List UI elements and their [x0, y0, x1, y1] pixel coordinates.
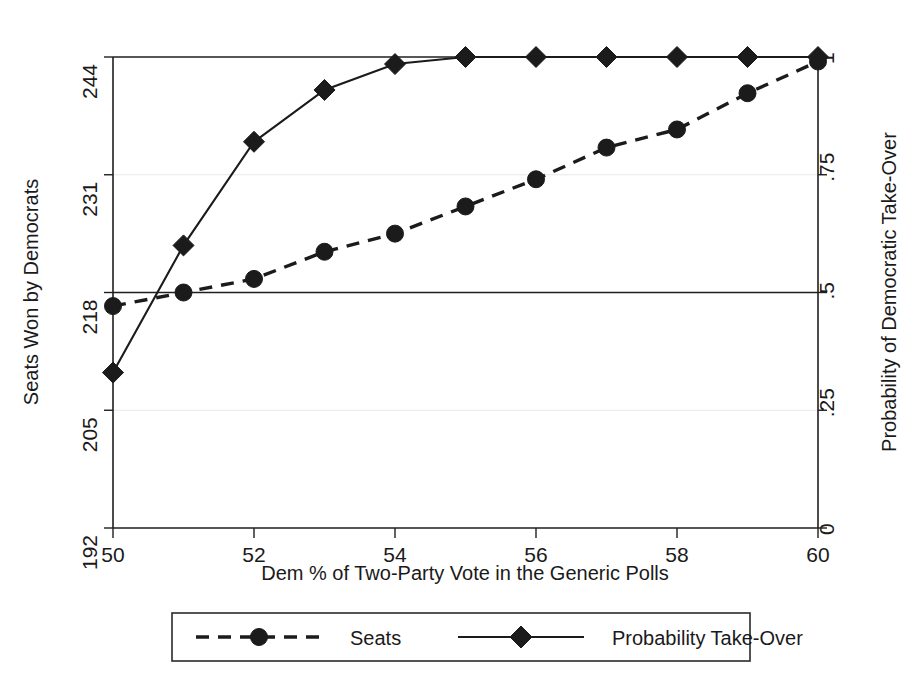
x-axis-ticks: 505254565860	[101, 528, 829, 566]
legend-marker-circle-icon	[251, 629, 268, 646]
x-tick-label-58: 58	[665, 543, 688, 566]
x-axis-title: Dem % of Two-Party Vote in the Generic P…	[261, 562, 669, 584]
data-point-seats-59[interactable]	[739, 85, 756, 102]
legend-label-probability: Probability Take-Over	[612, 627, 803, 649]
data-point-seats-57[interactable]	[598, 139, 615, 156]
y-axis-right-title: Probability of Democratic Take-Over	[878, 132, 900, 452]
data-point-seats-58[interactable]	[669, 121, 686, 138]
data-point-seats-56[interactable]	[528, 171, 545, 188]
x-tick-label-50: 50	[101, 543, 124, 566]
y-axis-left-title: Seats Won by Democrats	[20, 179, 42, 405]
data-point-seats-52[interactable]	[246, 270, 263, 287]
y-axis-left-ticks: 192205218231244	[78, 57, 113, 570]
y2-tick-label-0_5: .5	[815, 282, 838, 300]
y-tick-label-244: 244	[78, 64, 101, 99]
y2-tick-label-0_75: .75	[815, 153, 838, 182]
data-point-seats-53[interactable]	[316, 243, 333, 260]
chart-figure: 192205218231244 0.25.5.751 505254565860 …	[0, 0, 922, 677]
legend-label-seats: Seats	[350, 627, 401, 649]
y-tick-label-218: 218	[78, 300, 101, 335]
y-tick-label-205: 205	[78, 417, 101, 452]
data-point-seats-54[interactable]	[387, 225, 404, 242]
chart-legend: Seats Probability Take-Over	[172, 613, 803, 661]
y-tick-label-192: 192	[78, 535, 101, 570]
y2-tick-label-0_25: .25	[815, 388, 838, 417]
data-point-seats-50[interactable]	[105, 298, 122, 315]
data-point-seats-51[interactable]	[175, 284, 192, 301]
y-tick-label-231: 231	[78, 182, 101, 217]
chart-canvas: 192205218231244 0.25.5.751 505254565860 …	[0, 0, 922, 677]
data-point-seats-55[interactable]	[457, 198, 474, 215]
x-tick-label-60: 60	[806, 543, 829, 566]
